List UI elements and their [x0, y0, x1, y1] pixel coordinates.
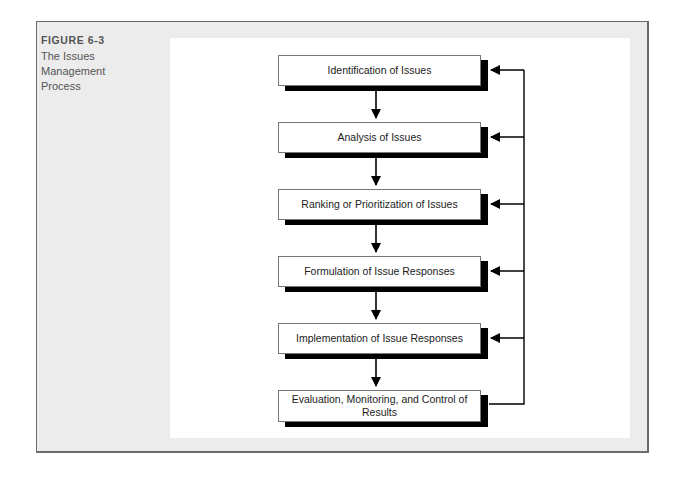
- step-formulation: Formulation of Issue Responses: [278, 256, 481, 287]
- step-label: Implementation of Issue Responses: [296, 332, 463, 345]
- step-label: Analysis of Issues: [337, 131, 421, 144]
- step-label: Identification of Issues: [328, 64, 432, 77]
- step-label: Ranking or Prioritization of Issues: [301, 198, 457, 211]
- step-analysis: Analysis of Issues: [278, 122, 481, 153]
- feedback-loop: [489, 70, 524, 404]
- step-implementation: Implementation of Issue Responses: [278, 323, 481, 354]
- step-label: Evaluation, Monitoring, and Control of R…: [283, 393, 476, 419]
- step-ranking: Ranking or Prioritization of Issues: [278, 189, 481, 220]
- step-label: Formulation of Issue Responses: [304, 265, 455, 278]
- step-identification: Identification of Issues: [278, 55, 481, 86]
- step-evaluation: Evaluation, Monitoring, and Control of R…: [278, 390, 481, 422]
